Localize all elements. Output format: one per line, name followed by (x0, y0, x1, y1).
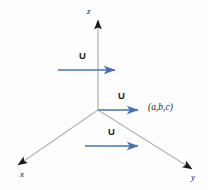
axis-label-z: z (87, 7, 91, 16)
diagram-canvas (0, 0, 208, 190)
vector-field-diagram: z x y U U U (a,b,c) (0, 0, 208, 190)
axis-label-x: x (20, 170, 24, 179)
point-coordinate-label: (a,b,c) (148, 103, 173, 113)
vector-label-origin: U (118, 91, 125, 101)
axis-line-y (98, 110, 192, 169)
vector-label-lower: U (108, 127, 115, 137)
vector-label-upper: U (79, 51, 86, 61)
axis-label-y: y (191, 173, 195, 182)
axis-line-x (18, 110, 98, 165)
